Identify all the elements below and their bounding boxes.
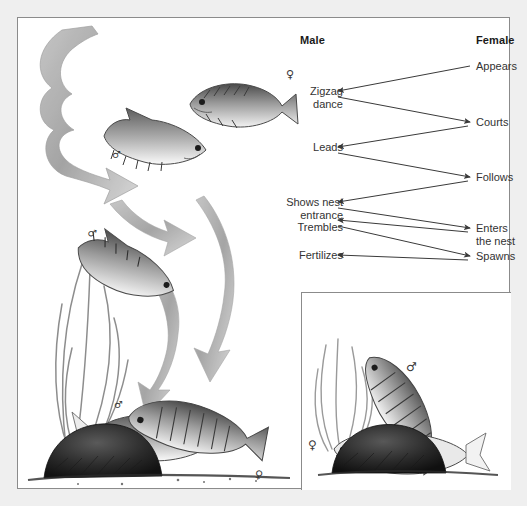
ladder-step-courts: Courts — [476, 116, 508, 129]
male-symbol-descending: ♂ — [87, 227, 98, 240]
inset-panel: ♀ ♂ — [301, 292, 511, 490]
ladder-step-shows-nest-entrance: Shows nest entrance — [286, 196, 343, 221]
ladder-step-trembles-line1: Trembles — [298, 221, 343, 234]
ladder-step-zigzag-dance: Zigzag dance — [310, 85, 343, 110]
ladder-step-follows: Follows — [476, 171, 513, 184]
inset-male-symbol: ♂ — [406, 360, 417, 374]
ladder-step-zigzag-dance-line1: Zigzag — [310, 85, 343, 98]
ladder-step-enters-the-nest-line2: the nest — [476, 235, 515, 248]
courtship-illustration: ♀ ♂ ♂ — [18, 18, 308, 488]
ladder-step-courts-line1: Courts — [476, 116, 508, 129]
fish-male-mid-upper: ♂ — [104, 108, 206, 171]
male-symbol-mid: ♂ — [112, 149, 121, 160]
ladder-step-leads: Leads — [313, 141, 343, 154]
column-header-male: Male — [300, 34, 325, 46]
ladder-step-shows-nest-entrance-line2: entrance — [286, 209, 343, 222]
ladder-step-shows-nest-entrance-line1: Shows nest — [286, 196, 343, 209]
ladder-step-fertilizes-line1: Fertilizes — [299, 249, 343, 262]
ladder-step-appears-line1: Appears — [476, 60, 517, 73]
ladder-step-fertilizes: Fertilizes — [299, 249, 343, 262]
ladder-step-enters-the-nest: Enters the nest — [476, 222, 515, 247]
column-header-female: Female — [476, 34, 515, 46]
fish-female-upper: ♀ — [190, 68, 298, 128]
dance-path-arrows — [40, 26, 138, 204]
ladder-step-enters-the-nest-line1: Enters — [476, 222, 515, 235]
ladder-step-follows-line1: Follows — [476, 171, 513, 184]
ladder-step-trembles: Trembles — [298, 221, 343, 234]
figure-panel: ♀ ♂ ♂ — [17, 17, 510, 489]
male-symbol-nest: ♂ — [114, 399, 123, 410]
female-symbol-nest: ♀ — [253, 467, 264, 482]
dance-path-arrow-3 — [194, 196, 234, 382]
behaviour-ladder: Male Female Zigzag dance Leads Shows nes… — [290, 34, 511, 280]
ladder-step-leads-line1: Leads — [313, 141, 343, 154]
ladder-step-appears: Appears — [476, 60, 517, 73]
ladder-step-zigzag-dance-line2: dance — [310, 98, 343, 111]
inset-female-symbol: ♀ — [308, 438, 317, 452]
ladder-step-spawns-line1: Spawns — [476, 250, 515, 263]
ladder-step-spawns: Spawns — [476, 250, 515, 263]
